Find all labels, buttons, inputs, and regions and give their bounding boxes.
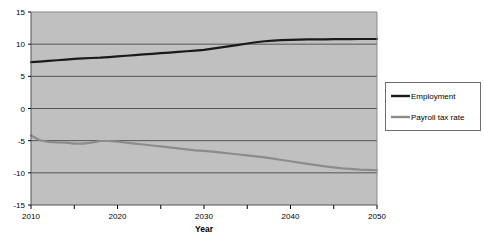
x-axis-title: Year bbox=[195, 224, 214, 234]
legend-box bbox=[386, 83, 481, 131]
x-tick-label: 2040 bbox=[282, 212, 300, 221]
legend-label-1: Payroll tax rate bbox=[411, 113, 465, 122]
line-chart: 151050-5-10-15 20102020203020402050 Year… bbox=[0, 0, 484, 240]
y-tick-label: 5 bbox=[21, 72, 26, 81]
chart-legend: EmploymentPayroll tax rate bbox=[386, 83, 481, 131]
y-tick-label: -15 bbox=[13, 201, 25, 210]
y-tick-label: 0 bbox=[21, 105, 26, 114]
x-tick-label: 2010 bbox=[22, 212, 40, 221]
chart-figure: 151050-5-10-15 20102020203020402050 Year… bbox=[0, 0, 484, 240]
x-tick-label: 2050 bbox=[368, 212, 386, 221]
y-tick-label: 15 bbox=[16, 8, 25, 17]
y-tick-label: -5 bbox=[18, 137, 26, 146]
y-tick-label: -10 bbox=[13, 169, 25, 178]
x-tick-label: 2020 bbox=[109, 212, 127, 221]
legend-label-0: Employment bbox=[411, 92, 456, 101]
y-tick-label: 10 bbox=[16, 40, 25, 49]
x-tick-label: 2030 bbox=[195, 212, 213, 221]
